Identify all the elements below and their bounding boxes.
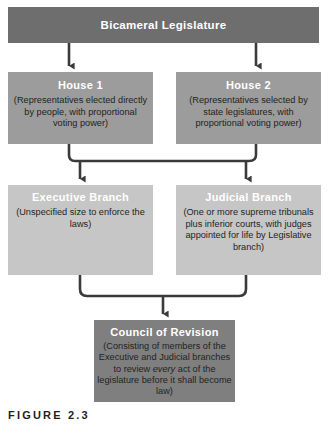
node-title: Judicial Branch — [205, 191, 291, 204]
node-body: (Representatives elected directly by peo… — [8, 95, 153, 130]
node-judicial-branch: Judicial Branch (One or more supreme tri… — [176, 185, 321, 275]
figure-diagram: Bicameral Legislature House 1 (Represent… — [0, 0, 329, 433]
node-title: Executive Branch — [32, 191, 129, 204]
node-executive-branch: Executive Branch (Unspecified size to en… — [8, 185, 153, 275]
figure-caption: FIGURE 2.3 — [8, 409, 90, 421]
node-body: (Representatives selected by state legis… — [176, 95, 321, 130]
node-body-emphasis: every — [153, 364, 175, 374]
node-body: (Consisting of members of the Executive … — [94, 341, 235, 397]
node-title: Bicameral Legislature — [101, 19, 227, 32]
node-house-1: House 1 (Representatives elected directl… — [8, 72, 153, 144]
node-house-2: House 2 (Representatives selected by sta… — [176, 72, 321, 144]
node-council-of-revision: Council of Revision (Consisting of membe… — [94, 320, 235, 402]
connector-houses-to-branches — [69, 144, 256, 179]
node-bicameral-legislature: Bicameral Legislature — [8, 7, 319, 43]
node-body: (Unspecified size to enforce the laws) — [8, 207, 153, 230]
node-title: Council of Revision — [110, 326, 218, 339]
node-title: House 1 — [58, 79, 103, 92]
node-body: (One or more supreme tribunals plus infe… — [176, 207, 321, 253]
connector-branches-to-council — [80, 275, 246, 314]
node-title: House 2 — [226, 79, 271, 92]
